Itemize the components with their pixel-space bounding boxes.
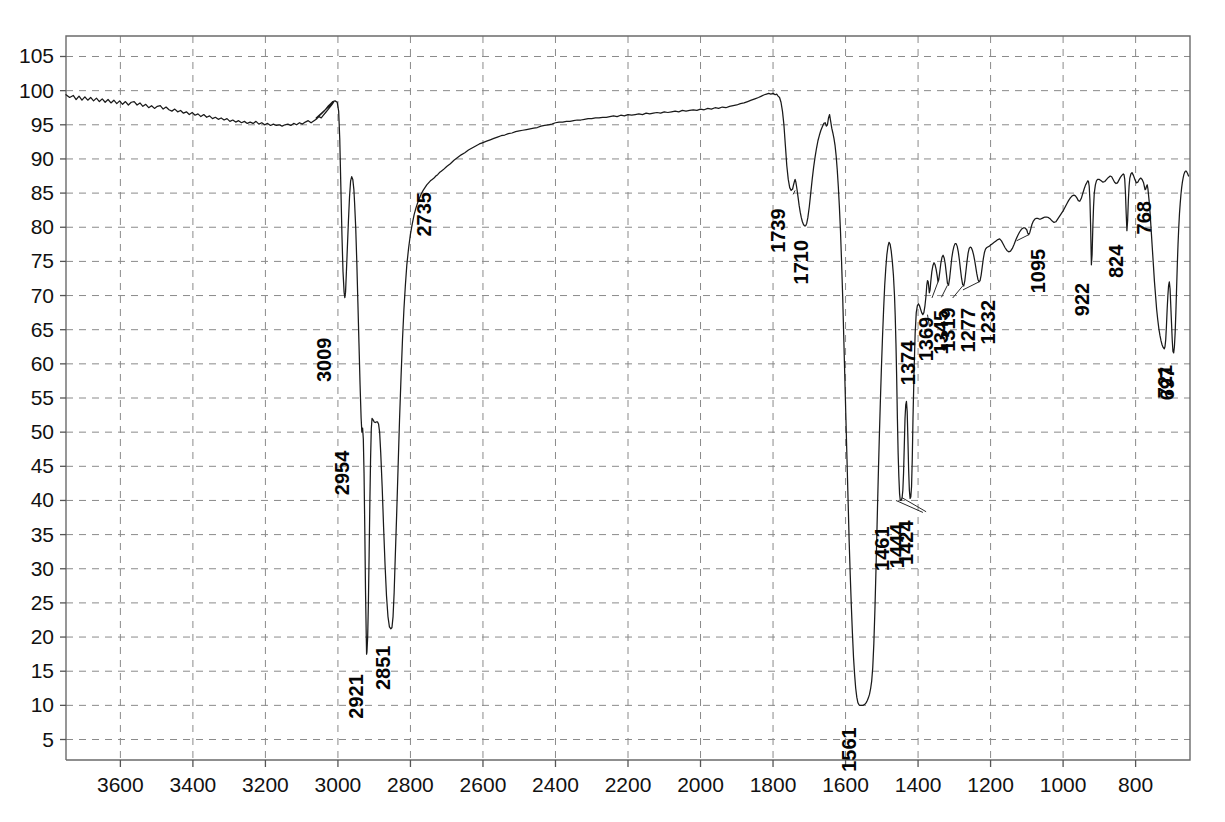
y-tick-label: 100 <box>19 79 54 102</box>
peak-label: 824 <box>1105 244 1127 278</box>
y-tick-label: 60 <box>31 352 54 375</box>
peak-label: 2851 <box>372 645 394 690</box>
y-tick-label: 40 <box>31 488 54 511</box>
y-tick-label: 30 <box>31 557 54 580</box>
peak-label: 1561 <box>838 727 860 772</box>
ir-spectrum-chart: 5101520253035404550556065707580859095100… <box>0 0 1225 822</box>
peak-label: 2954 <box>331 450 353 495</box>
peak-label: 1739 <box>767 208 789 253</box>
x-tick-label: 2000 <box>677 773 724 796</box>
x-tick-label: 1200 <box>967 773 1014 796</box>
x-tick-label: 3200 <box>242 773 289 796</box>
peak-label: 1095 <box>1027 249 1049 294</box>
x-tick-label: 3600 <box>97 773 144 796</box>
peak-label: 922 <box>1071 283 1093 316</box>
peak-label: 697 <box>1156 367 1178 400</box>
x-tick-label: 1600 <box>822 773 869 796</box>
peak-label: 1277 <box>957 308 979 353</box>
y-tick-label: 45 <box>31 454 54 477</box>
y-tick-label: 90 <box>31 147 54 170</box>
peak-label: 1424 <box>895 520 917 565</box>
x-tick-label: 3400 <box>170 773 217 796</box>
y-tick-label: 105 <box>19 44 54 67</box>
peak-label: 2735 <box>413 192 435 237</box>
y-tick-label: 35 <box>31 523 54 546</box>
y-tick-label: 85 <box>31 181 54 204</box>
x-tick-label: 2600 <box>460 773 507 796</box>
x-axis-tick-labels: 3600340032003000280026002400220020001800… <box>97 773 1153 796</box>
peak-label: 2921 <box>345 674 367 719</box>
y-tick-label: 5 <box>42 728 54 751</box>
y-tick-label: 75 <box>31 249 54 272</box>
peak-label: 768 <box>1133 201 1155 234</box>
x-tick-label: 1000 <box>1040 773 1087 796</box>
x-tick-label: 2200 <box>605 773 652 796</box>
y-tick-label: 70 <box>31 284 54 307</box>
peak-label: 3009 <box>313 338 335 383</box>
x-tick-label: 2800 <box>387 773 434 796</box>
y-tick-label: 20 <box>31 625 54 648</box>
y-tick-label: 10 <box>31 693 54 716</box>
y-tick-label: 95 <box>31 113 54 136</box>
spectrum-plot-svg: 5101520253035404550556065707580859095100… <box>0 0 1225 822</box>
y-tick-label: 65 <box>31 318 54 341</box>
x-tick-label: 800 <box>1118 773 1153 796</box>
y-tick-label: 80 <box>31 215 54 238</box>
y-tick-label: 25 <box>31 591 54 614</box>
peak-label: 1710 <box>790 240 812 285</box>
y-tick-label: 55 <box>31 386 54 409</box>
chart-background <box>0 0 1225 822</box>
x-tick-label: 3000 <box>315 773 362 796</box>
y-tick-label: 50 <box>31 420 54 443</box>
peak-label: 1232 <box>977 300 999 345</box>
x-tick-label: 2400 <box>532 773 579 796</box>
x-tick-label: 1800 <box>750 773 797 796</box>
x-tick-label: 1400 <box>895 773 942 796</box>
y-tick-label: 15 <box>31 659 54 682</box>
